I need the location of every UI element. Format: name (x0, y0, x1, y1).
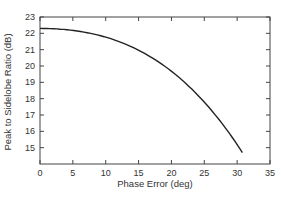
y-tick-label: 20 (25, 61, 35, 71)
x-tick-label: 35 (265, 168, 275, 178)
y-tick-label: 17 (25, 110, 35, 120)
x-axis-label: Phase Error (deg) (117, 178, 193, 189)
y-axis-label: Peak to Sidelobe Ratio (dB) (2, 33, 13, 150)
y-tick-label: 16 (25, 126, 35, 136)
y-tick-label: 18 (25, 94, 35, 104)
y-tick-label: 22 (25, 28, 35, 38)
y-tick-label: 21 (25, 45, 35, 55)
x-tick-label: 25 (199, 168, 209, 178)
y-tick-label: 23 (25, 12, 35, 22)
x-tick-label: 30 (232, 168, 242, 178)
y-tick-label: 19 (25, 77, 35, 87)
x-tick-label: 5 (70, 168, 75, 178)
y-tick-label: 15 (25, 143, 35, 153)
chart: 05101520253035151617181920212223 Phase E… (0, 0, 281, 198)
plot-area: 05101520253035151617181920212223 (25, 12, 275, 178)
x-tick-label: 15 (134, 168, 144, 178)
x-tick-label: 0 (37, 168, 42, 178)
x-tick-label: 10 (101, 168, 111, 178)
x-tick-label: 20 (166, 168, 176, 178)
data-line (40, 28, 242, 152)
